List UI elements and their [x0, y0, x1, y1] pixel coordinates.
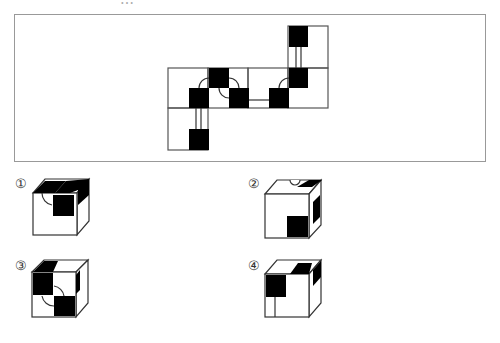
option-2-label[interactable]: ② [248, 177, 260, 190]
option-3-label[interactable]: ③ [15, 259, 27, 272]
option-4-label[interactable]: ④ [248, 259, 260, 272]
option-4-cube [265, 260, 321, 317]
option-1-cube [33, 179, 89, 235]
option-3-cube [32, 260, 88, 317]
option-1-label[interactable]: ① [15, 177, 27, 190]
diagram-canvas [0, 0, 500, 343]
net-black-squares [189, 26, 308, 150]
option-2-cube [265, 180, 322, 238]
